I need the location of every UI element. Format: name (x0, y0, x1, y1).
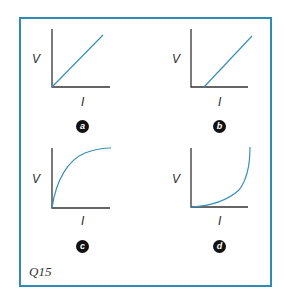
question-label: Q15 (29, 264, 51, 280)
panel-d-curve (191, 147, 250, 207)
panel-b-axes (191, 29, 248, 87)
panel-c-graph (52, 148, 111, 208)
panel-d-y-label: V (172, 173, 180, 185)
panel-c-badge: c (76, 240, 89, 253)
panel-c-curve (52, 148, 111, 208)
panel-d-axes (191, 148, 248, 207)
panel-b-badge: b (213, 120, 226, 133)
panel-a-y-label: V (32, 53, 40, 65)
panel-a-badge: a (76, 120, 89, 133)
panel-d-x-label: I (218, 215, 221, 227)
panel-d-graph (191, 147, 250, 207)
panel-a-graph (52, 29, 110, 87)
panel-b-x-label: I (218, 96, 221, 108)
panel-b-y-label: V (172, 53, 180, 65)
graphs-canvas (0, 0, 286, 301)
panel-b-graph (191, 29, 252, 87)
panel-c-y-label: V (32, 173, 40, 185)
panel-a-curve (52, 35, 103, 87)
panel-c-x-label: I (81, 215, 84, 227)
panel-d-badge: d (213, 240, 226, 253)
panel-b-curve (204, 36, 252, 87)
panel-a-x-label: I (81, 96, 84, 108)
